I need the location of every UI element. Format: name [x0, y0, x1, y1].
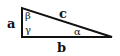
angle-gamma-label: γ [25, 24, 31, 35]
angle-alpha-label: α [74, 26, 81, 37]
triangle-shape [22, 8, 112, 37]
right-triangle-diagram: a c b β γ α [0, 0, 120, 56]
side-b-label: b [57, 40, 66, 55]
angle-beta-label: β [25, 10, 31, 21]
side-a-label: a [7, 16, 16, 31]
side-c-label: c [59, 6, 67, 21]
